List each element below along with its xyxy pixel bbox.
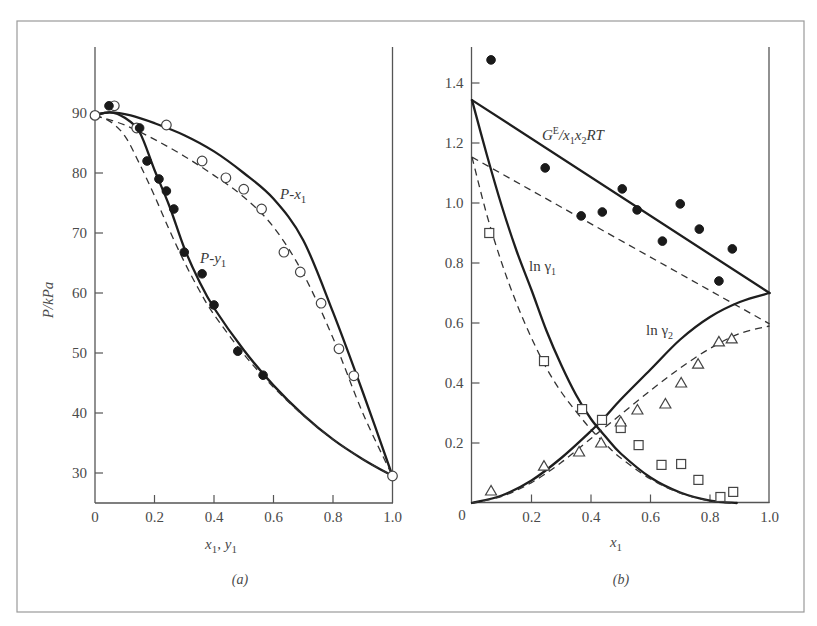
filled-circle-marker <box>618 185 627 194</box>
y-tick-label: 50 <box>72 345 87 361</box>
label-ge-x1x2rt: GE/x1x2RT <box>542 125 606 146</box>
open-circle-marker <box>334 344 344 354</box>
dashed-fit-curve <box>95 115 393 476</box>
y-tick-label: 0.8 <box>445 255 464 271</box>
y-tick-label: 0.2 <box>445 435 464 451</box>
filled-circle-marker <box>715 277 724 286</box>
filled-circle-marker <box>155 175 164 184</box>
panel-a-caption: (a) <box>232 572 249 588</box>
y-tick-label: 70 <box>72 225 87 241</box>
x-tick-label: 0.6 <box>641 509 660 525</box>
open-triangle-marker <box>596 438 607 448</box>
open-square-marker <box>539 357 548 366</box>
x-tick-label: 0 <box>91 509 99 525</box>
open-circle-marker <box>221 173 231 183</box>
panel-b-excess-gibbs: 0.20.40.60.81.00.20.40.60.81.01.21.4 0 x… <box>445 47 779 588</box>
open-triangle-marker <box>632 405 643 415</box>
filled-circle-marker <box>695 225 704 234</box>
filled-circle-marker <box>170 205 179 214</box>
x-tick-label: 0.4 <box>582 509 601 525</box>
solid-fit-curve <box>95 112 393 476</box>
filled-circle-marker <box>728 245 737 254</box>
open-circle-marker <box>388 471 398 481</box>
open-circle-marker <box>349 371 359 381</box>
x-tick-label: 1.0 <box>383 509 402 525</box>
open-square-marker <box>694 475 703 484</box>
panel-b-x-label: x1 <box>609 534 622 553</box>
filled-circle-marker <box>259 371 268 380</box>
y-tick-label: 1.2 <box>445 135 464 151</box>
dashed-fit-curve <box>472 326 770 503</box>
y-tick-label: 0.6 <box>445 315 464 331</box>
open-triangle-marker <box>486 486 497 496</box>
panel-a-pressure-composition: 00.20.40.60.81.030405060708090 P/kPa x1,… <box>40 47 402 588</box>
x-tick-label: 0.8 <box>324 509 343 525</box>
x-tick-label: 0.2 <box>145 509 164 525</box>
open-circle-marker <box>239 184 249 194</box>
panel-b-ticks: 0.20.40.60.81.00.20.40.60.81.01.21.4 <box>445 75 779 525</box>
filled-circle-marker <box>598 208 607 217</box>
open-square-marker <box>634 441 643 450</box>
filled-circle-marker <box>487 56 496 65</box>
open-circle-marker <box>295 267 305 277</box>
open-triangle-marker <box>538 461 549 471</box>
x-tick-label: 0.4 <box>205 509 224 525</box>
dashed-fit-curve <box>472 157 770 324</box>
y-tick-label: 40 <box>72 405 87 421</box>
label-p-y1: P-y1 <box>199 250 226 269</box>
filled-circle-marker <box>210 301 219 310</box>
open-triangle-marker <box>660 399 671 409</box>
panel-b-points <box>485 56 738 502</box>
open-circle-marker <box>162 120 172 130</box>
solid-fit-curve <box>472 100 770 293</box>
panel-a-curves <box>95 112 393 476</box>
filled-circle-marker <box>180 248 189 257</box>
filled-circle-marker <box>105 102 114 111</box>
label-ln-gamma2: ln γ2 <box>646 322 673 341</box>
open-triangle-marker <box>676 378 687 388</box>
open-circle-marker <box>257 204 267 214</box>
y-tick-label: 1.0 <box>445 195 464 211</box>
y-tick-label: 0.4 <box>445 375 464 391</box>
open-square-marker <box>485 229 494 238</box>
label-p-x1: P-x1 <box>279 186 306 205</box>
filled-circle-marker <box>577 212 586 221</box>
x-tick-label: 1.0 <box>760 509 779 525</box>
filled-circle-marker <box>676 200 685 209</box>
open-circle-marker <box>279 247 289 257</box>
filled-circle-marker <box>658 237 667 246</box>
figure-frame <box>17 21 804 612</box>
panel-a-x-label: x1, y1 <box>204 536 237 555</box>
open-circle-marker <box>90 111 100 121</box>
panel-b-curves <box>472 100 770 503</box>
open-triangle-marker <box>574 447 585 457</box>
open-square-marker <box>598 415 607 424</box>
panel-b-origin-label: 0 <box>458 507 466 523</box>
solid-fit-curve <box>95 112 393 476</box>
filled-circle-marker <box>198 270 207 279</box>
label-ln-gamma1: ln γ1 <box>529 258 556 277</box>
y-tick-label: 60 <box>72 285 87 301</box>
y-tick-label: 90 <box>72 105 87 121</box>
filled-circle-marker <box>633 206 642 215</box>
y-tick-label: 30 <box>72 465 87 481</box>
filled-circle-marker <box>162 187 171 196</box>
open-triangle-marker <box>693 359 704 369</box>
x-tick-label: 0.8 <box>701 509 720 525</box>
filled-circle-marker <box>143 157 152 166</box>
solid-fit-curve <box>472 293 770 503</box>
open-square-marker <box>578 405 587 414</box>
open-square-marker <box>716 493 725 502</box>
filled-circle-marker <box>541 164 550 173</box>
filled-circle-marker <box>234 347 243 356</box>
x-tick-label: 0.6 <box>264 509 283 525</box>
dashed-fit-curve <box>95 115 393 476</box>
y-tick-label: 80 <box>72 165 87 181</box>
panel-a-y-label: P/kPa <box>40 282 56 320</box>
y-tick-label: 1.4 <box>445 75 464 91</box>
open-circle-marker <box>197 156 207 166</box>
open-square-marker <box>657 460 666 469</box>
x-tick-label: 0.2 <box>522 509 541 525</box>
filled-circle-marker <box>135 124 144 133</box>
figure: 00.20.40.60.81.030405060708090 P/kPa x1,… <box>0 0 817 626</box>
